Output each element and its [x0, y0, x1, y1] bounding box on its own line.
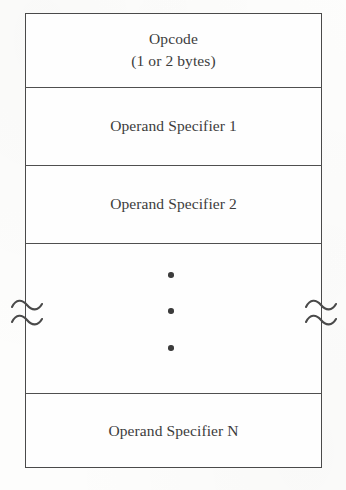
opcode-label: Opcode — [149, 28, 198, 50]
diagram-canvas: Opcode (1 or 2 bytes) Operand Specifier … — [0, 0, 346, 490]
field-opcode: Opcode (1 or 2 bytes) — [25, 13, 322, 87]
ellipsis-dot — [168, 345, 174, 351]
operand-specifier-n-label: Operand Specifier N — [108, 422, 238, 440]
ellipsis-dot — [168, 308, 174, 314]
tilde-break-left-icon — [8, 288, 48, 340]
field-divider-3 — [25, 243, 322, 244]
vertical-ellipsis-icon — [168, 272, 179, 356]
ellipsis-dot — [168, 272, 174, 278]
field-operand-specifier-1: Operand Specifier 1 — [25, 87, 322, 165]
operand-specifier-1-label: Operand Specifier 1 — [110, 117, 237, 135]
operand-specifier-2-label: Operand Specifier 2 — [110, 195, 237, 213]
tilde-break-right-icon — [302, 288, 342, 340]
field-operand-specifier-n: Operand Specifier N — [25, 393, 322, 468]
opcode-size-label: (1 or 2 bytes) — [131, 50, 215, 72]
field-operand-specifier-2: Operand Specifier 2 — [25, 165, 322, 243]
opcode-text-stack: Opcode (1 or 2 bytes) — [131, 28, 215, 72]
